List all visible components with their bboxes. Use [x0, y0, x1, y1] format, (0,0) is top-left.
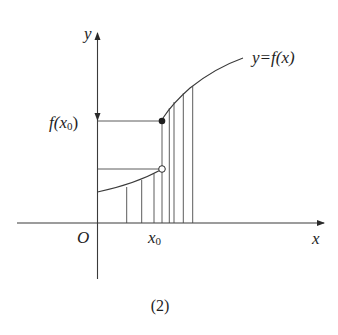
fx0-label: f(x0) — [49, 113, 78, 132]
curve-right-branch — [163, 58, 243, 118]
figure-caption: (2) — [151, 297, 170, 315]
fx0-label-suffix: ) — [72, 113, 78, 132]
function-diagram: y x O x0 f(x0) y=f(x) (2) — [0, 0, 338, 335]
x-axis-label: x — [311, 229, 320, 248]
function-label: y=f(x) — [250, 48, 295, 67]
curve-left-branch — [98, 171, 160, 193]
open-point — [159, 166, 166, 173]
origin-label: O — [77, 228, 89, 247]
y-axis-label: y — [82, 24, 92, 43]
filled-point — [159, 118, 166, 125]
x0-label-subscript: 0 — [156, 235, 162, 247]
fx0-label-prefix: f(x — [49, 113, 67, 132]
x0-label: x0 — [147, 228, 162, 247]
down-arrow-icon — [95, 113, 101, 121]
